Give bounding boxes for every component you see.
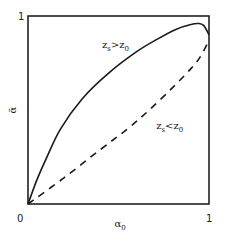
annotation-zs-greater-z0: zs>z0	[102, 39, 129, 53]
series-line-zs-greater-z0	[28, 23, 209, 204]
y-axis-label: ᾱ	[7, 106, 18, 113]
chart: 1 0 1 α0 ᾱ zs>z0 zs<z0	[0, 0, 226, 242]
ann-1-op: <	[165, 120, 173, 131]
x-tick-label-1: 1	[206, 213, 212, 224]
x-tick-label-0: 0	[17, 213, 23, 224]
x-axis-label-sub: 0	[121, 224, 125, 232]
series-layer	[28, 23, 209, 204]
ann-0-sub-2: 0	[125, 45, 129, 53]
ann-1-sub-2: 0	[179, 126, 183, 134]
ann-0-op: >	[111, 39, 119, 50]
x-axis-label: α0	[115, 218, 126, 232]
y-tick-label-1: 1	[18, 11, 24, 22]
annotation-zs-less-z0: zs<z0	[156, 120, 183, 134]
